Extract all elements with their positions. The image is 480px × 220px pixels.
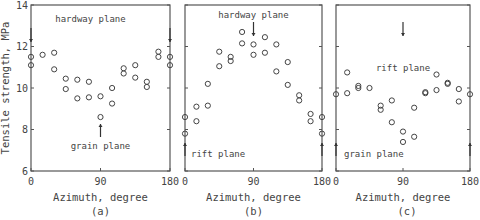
- chart-panel-3: 090180Azimuth, degree(c)rift planegrain …: [333, 5, 479, 217]
- data-point: [40, 52, 45, 57]
- x-tick-label: 90: [397, 176, 409, 187]
- panel-label: (b): [244, 205, 263, 217]
- arrow-head-icon: [252, 33, 256, 36]
- data-point: [217, 64, 222, 69]
- y-tick-label: 10: [16, 83, 28, 94]
- data-point: [297, 93, 302, 98]
- x-axis-title: Azimuth, degree: [53, 191, 148, 203]
- data-point: [308, 111, 313, 116]
- y-tick-label: 12: [16, 41, 28, 52]
- data-point: [63, 86, 68, 91]
- y-axis-title: Tensile strength, MPa: [0, 22, 11, 155]
- data-point: [63, 76, 68, 81]
- data-point: [217, 49, 222, 54]
- data-point: [285, 82, 290, 87]
- data-point: [434, 72, 439, 77]
- panel-label: (c): [398, 205, 417, 217]
- x-tick-label: 0: [28, 176, 34, 187]
- data-point: [412, 134, 417, 139]
- x-axis-title: Azimuth, degree: [206, 191, 301, 203]
- data-point: [86, 79, 91, 84]
- y-tick-label: 8: [22, 124, 28, 135]
- data-point: [239, 29, 244, 34]
- data-point: [121, 71, 126, 76]
- arrow-head-icon: [168, 39, 172, 42]
- y-tick-label: 14: [16, 0, 28, 11]
- figure-canvas: Tensile strength, MPa 68101214090180Azim…: [0, 0, 480, 220]
- chart-panel-2: 090180Azimuth, degree(b)hardway planerif…: [182, 5, 331, 217]
- data-point: [156, 49, 161, 54]
- data-point: [52, 50, 57, 55]
- arrow-head-icon: [99, 124, 103, 127]
- y-tick-label: 6: [22, 166, 28, 177]
- data-point: [144, 84, 149, 89]
- data-point: [262, 35, 267, 40]
- data-point: [121, 66, 126, 71]
- data-point: [308, 119, 313, 124]
- arrow-head-icon: [401, 33, 405, 36]
- data-point: [194, 119, 199, 124]
- data-point: [345, 70, 350, 75]
- data-point: [86, 95, 91, 100]
- data-point: [367, 85, 372, 90]
- data-point: [400, 129, 405, 134]
- data-point: [239, 41, 244, 46]
- data-point: [205, 103, 210, 108]
- annotation-label: grain plane: [71, 141, 131, 151]
- data-point: [262, 50, 267, 55]
- x-tick-label: 180: [161, 176, 179, 187]
- arrow-head-icon: [334, 143, 338, 146]
- x-tick-label: 90: [247, 176, 259, 187]
- data-point: [274, 69, 279, 74]
- x-tick-label: 180: [461, 176, 479, 187]
- annotation-label: rift plane: [191, 149, 245, 159]
- data-point: [297, 98, 302, 103]
- arrow-head-icon: [29, 39, 33, 42]
- panel-label: (a): [91, 205, 110, 217]
- data-point: [345, 91, 350, 96]
- annotation-label: hardway plane: [55, 14, 125, 24]
- annotation-label: hardway plane: [218, 10, 288, 20]
- data-point: [251, 42, 256, 47]
- data-point: [389, 120, 394, 125]
- data-point: [109, 101, 114, 106]
- data-point: [400, 139, 405, 144]
- data-point: [456, 99, 461, 104]
- data-point: [274, 42, 279, 47]
- data-point: [156, 54, 161, 59]
- data-point: [412, 105, 417, 110]
- arrow-head-icon: [183, 143, 187, 146]
- data-point: [133, 63, 138, 68]
- data-point: [52, 67, 57, 72]
- data-point: [434, 87, 439, 92]
- data-point: [75, 77, 80, 82]
- x-tick-label: 180: [313, 176, 331, 187]
- x-tick-label: 0: [333, 176, 339, 187]
- x-axis-title: Azimuth, degree: [356, 191, 451, 203]
- data-point: [205, 81, 210, 86]
- arrow-head-icon: [320, 143, 324, 146]
- data-point: [109, 85, 114, 90]
- data-point: [75, 96, 80, 101]
- data-point: [456, 86, 461, 91]
- annotation-label: rift plane: [376, 63, 430, 73]
- arrow-head-icon: [468, 143, 472, 146]
- data-point: [98, 94, 103, 99]
- data-point: [98, 114, 103, 119]
- data-point: [285, 59, 290, 64]
- data-point: [144, 79, 149, 84]
- data-point: [133, 75, 138, 80]
- data-point: [389, 98, 394, 103]
- x-tick-label: 90: [94, 176, 106, 187]
- chart-panel-1: 68101214090180Azimuth, degree(a)hardway …: [16, 0, 179, 217]
- data-point: [251, 52, 256, 57]
- data-point: [194, 104, 199, 109]
- x-tick-label: 0: [182, 176, 188, 187]
- annotation-label: grain plane: [344, 149, 404, 159]
